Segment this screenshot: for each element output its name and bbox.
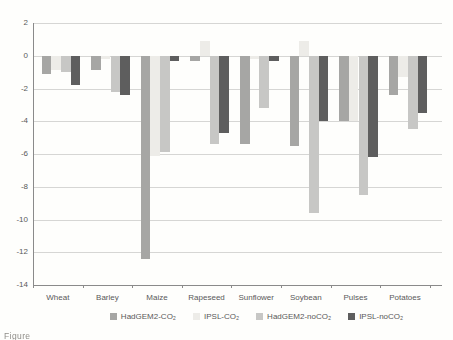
legend-item: IPSL-noCO₂ bbox=[348, 312, 403, 321]
gridline bbox=[33, 121, 442, 122]
bar-barley-series-3 bbox=[120, 56, 130, 95]
x-axis-tick bbox=[33, 285, 34, 288]
y-tick-label: 2 bbox=[0, 19, 28, 27]
legend-swatch bbox=[348, 313, 355, 320]
legend-swatch bbox=[256, 313, 263, 320]
legend-label: HadGEM2-CO₂ bbox=[121, 312, 176, 321]
bar-potatoes-series-2 bbox=[408, 56, 418, 130]
bar-soybean-series-2 bbox=[309, 56, 319, 213]
gridline bbox=[33, 220, 442, 221]
bar-pulses-series-3 bbox=[368, 56, 378, 158]
bar-wheat-series-2 bbox=[61, 56, 71, 72]
y-tick-label: -10 bbox=[0, 216, 28, 224]
x-axis-tick bbox=[231, 285, 232, 288]
x-category-label: Barley bbox=[83, 293, 133, 302]
legend-swatch bbox=[193, 313, 200, 320]
bar-barley-series-2 bbox=[111, 56, 121, 92]
bar-sunflower-series-0 bbox=[240, 56, 250, 144]
x-axis-tick bbox=[132, 285, 133, 288]
y-tick-label: -14 bbox=[0, 281, 28, 289]
bar-maize-series-3 bbox=[170, 56, 180, 61]
bar-pulses-series-0 bbox=[339, 56, 349, 122]
x-category-label: Wheat bbox=[33, 293, 83, 302]
x-axis-tick bbox=[281, 285, 282, 288]
x-category-label: Potatoes bbox=[380, 293, 430, 302]
bar-pulses-series-2 bbox=[359, 56, 369, 195]
x-category-label: Maize bbox=[132, 293, 182, 302]
bar-soybean-series-1 bbox=[299, 41, 309, 56]
y-tick-label: -8 bbox=[0, 183, 28, 191]
bar-wheat-series-0 bbox=[42, 56, 52, 74]
x-axis-tick bbox=[380, 285, 381, 288]
gridline bbox=[33, 154, 442, 155]
bar-barley-series-1 bbox=[101, 56, 111, 59]
bar-sunflower-series-2 bbox=[259, 56, 269, 108]
legend-item: HadGEM2-CO₂ bbox=[110, 312, 176, 321]
bar-maize-series-2 bbox=[160, 56, 170, 153]
y-tick-label: 0 bbox=[0, 52, 28, 60]
legend-label: HadGEM2-noCO₂ bbox=[267, 312, 331, 321]
bar-wheat-series-3 bbox=[71, 56, 81, 86]
y-tick-label: -2 bbox=[0, 85, 28, 93]
y-tick-label: -4 bbox=[0, 117, 28, 125]
bar-pulses-series-1 bbox=[349, 56, 359, 122]
caption-fragment: Figure bbox=[4, 331, 304, 340]
legend-label: IPSL-noCO₂ bbox=[359, 312, 403, 321]
bar-potatoes-series-0 bbox=[389, 56, 399, 95]
x-axis-tick bbox=[430, 285, 431, 288]
legend-swatch bbox=[110, 313, 117, 320]
x-category-label: Sunflower bbox=[231, 293, 281, 302]
y-tick-label: -12 bbox=[0, 248, 28, 256]
legend-item: HadGEM2-noCO₂ bbox=[256, 312, 331, 321]
plot-area: 20-2-4-6-8-10-12-14WheatBarleyMaizeRapes… bbox=[0, 0, 453, 340]
bar-potatoes-series-1 bbox=[398, 56, 408, 77]
bar-potatoes-series-3 bbox=[418, 56, 428, 113]
y-axis-line bbox=[33, 23, 34, 285]
x-axis-tick bbox=[182, 285, 183, 288]
x-category-label: Pulses bbox=[331, 293, 381, 302]
bar-rapeseed-series-2 bbox=[210, 56, 220, 144]
bar-soybean-series-0 bbox=[290, 56, 300, 146]
bar-soybean-series-3 bbox=[319, 56, 329, 122]
bar-chart-figure: 20-2-4-6-8-10-12-14WheatBarleyMaizeRapes… bbox=[0, 0, 453, 340]
bar-rapeseed-series-0 bbox=[190, 56, 200, 61]
bar-barley-series-0 bbox=[91, 56, 101, 71]
gridline bbox=[33, 252, 442, 253]
y-tick-label: -6 bbox=[0, 150, 28, 158]
legend: HadGEM2-CO₂IPSL-CO₂HadGEM2-noCO₂IPSL-noC… bbox=[60, 312, 453, 321]
bar-maize-series-0 bbox=[141, 56, 151, 259]
bar-sunflower-series-3 bbox=[269, 56, 279, 61]
bar-maize-series-1 bbox=[150, 56, 160, 156]
bar-rapeseed-series-1 bbox=[200, 41, 210, 56]
x-category-label: Rapeseed bbox=[182, 293, 232, 302]
x-category-label: Soybean bbox=[281, 293, 331, 302]
gridline bbox=[33, 187, 442, 188]
x-axis-tick bbox=[331, 285, 332, 288]
gridline bbox=[33, 89, 442, 90]
bar-rapeseed-series-3 bbox=[219, 56, 229, 133]
bar-sunflower-series-1 bbox=[250, 56, 260, 59]
gridline bbox=[33, 23, 442, 24]
x-axis-tick bbox=[83, 285, 84, 288]
legend-label: IPSL-CO₂ bbox=[204, 312, 239, 321]
legend-item: IPSL-CO₂ bbox=[193, 312, 239, 321]
bar-wheat-series-1 bbox=[51, 56, 61, 71]
